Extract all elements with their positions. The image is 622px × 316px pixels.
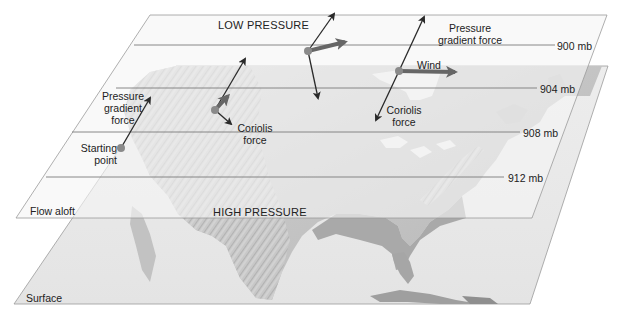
high-pressure-label: HIGH PRESSURE bbox=[213, 206, 307, 218]
coriolis-mid-label: Coriolis force bbox=[234, 122, 276, 146]
diagram-stage: LOW PRESSURE HIGH PRESSURE 900 mb 904 mb… bbox=[0, 0, 622, 316]
starting-point-dot bbox=[117, 144, 125, 152]
isobar-label-904: 904 mb bbox=[540, 83, 575, 95]
flow-aloft-label: Flow aloft bbox=[30, 205, 75, 217]
isobar-label-900: 900 mb bbox=[557, 40, 592, 52]
isobar-label-908: 908 mb bbox=[523, 127, 558, 139]
surface-label: Surface bbox=[26, 292, 62, 304]
starting-point-label: Starting point bbox=[77, 142, 117, 166]
isobar-label-912: 912 mb bbox=[508, 172, 543, 184]
pgf-right-label: Pressure gradient force bbox=[420, 22, 520, 46]
coriolis-right-label: Coriolis force bbox=[382, 104, 426, 128]
low-pressure-label: LOW PRESSURE bbox=[218, 19, 309, 31]
wind-label: Wind bbox=[417, 59, 441, 71]
pgf-left-label: Pressure gradient force bbox=[98, 90, 148, 126]
